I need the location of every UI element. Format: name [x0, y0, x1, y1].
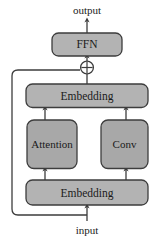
node-box-embedding-bottom[interactable] — [26, 180, 148, 205]
output-label: output — [47, 4, 127, 16]
node-box-attention[interactable] — [27, 120, 77, 169]
residual-add-node — [81, 61, 94, 74]
node-box-conv[interactable] — [101, 120, 148, 169]
diagram-canvas — [0, 0, 164, 245]
node-box-embedding-top[interactable] — [26, 84, 148, 108]
architecture-diagram: output FFN Embedding Attention Conv Embe… — [0, 0, 164, 245]
node-box-ffn[interactable] — [52, 33, 122, 56]
input-label: input — [47, 224, 127, 236]
